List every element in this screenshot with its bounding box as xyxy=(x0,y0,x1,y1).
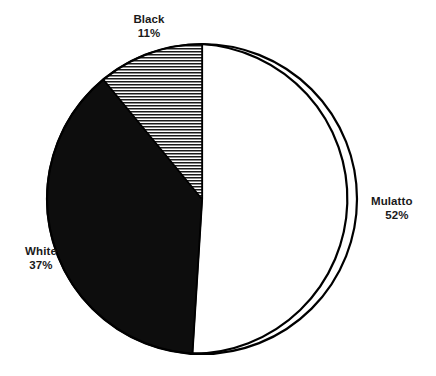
pie-chart: Black 11% Mulatto 52% White 37% xyxy=(0,0,436,376)
clipped-caption xyxy=(14,366,424,376)
pie-label-black-name: Black xyxy=(112,13,186,27)
pie-label-mulatto-value: 52% xyxy=(371,209,423,223)
pie-label-white-value: 37% xyxy=(8,259,74,273)
chart-page: Black 11% Mulatto 52% White 37% xyxy=(0,0,436,376)
pie-label-white: White 37% xyxy=(8,245,74,272)
pie-label-black-value: 11% xyxy=(112,27,186,41)
pie-label-mulatto: Mulatto 52% xyxy=(371,195,433,222)
pie-slice-mulatto[interactable] xyxy=(192,44,347,354)
pie-label-mulatto-name: Mulatto xyxy=(371,195,433,209)
pie-chart-svg xyxy=(0,0,436,376)
pie-label-white-name: White xyxy=(8,245,74,259)
pie-label-black: Black 11% xyxy=(112,13,186,40)
